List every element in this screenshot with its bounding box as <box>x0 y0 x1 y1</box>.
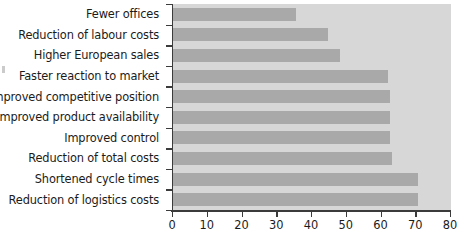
bar <box>173 193 418 206</box>
bar <box>173 90 390 103</box>
category-label: Higher European sales <box>0 45 166 66</box>
value-axis-ticklabel: 30 <box>269 218 284 232</box>
bar <box>173 49 340 62</box>
category-label: Shortened cycle times <box>0 169 166 190</box>
bar-row <box>173 169 451 190</box>
value-axis-tick <box>346 211 347 217</box>
value-axis-tick <box>415 211 416 217</box>
value-axis-ticklabel: 20 <box>234 218 249 232</box>
category-label: Improved control <box>0 128 166 149</box>
category-label: Reduction of total costs <box>0 148 166 169</box>
value-axis-tick <box>172 211 173 217</box>
plot-area <box>172 4 451 210</box>
value-axis-tick <box>276 211 277 217</box>
bar <box>173 8 296 21</box>
category-label: Fewer offices <box>0 4 166 25</box>
category-axis-labels: Fewer offices Reduction of labour costs … <box>0 4 166 210</box>
value-axis-tick <box>381 211 382 217</box>
category-label: Reduction of logistics costs <box>0 189 166 210</box>
bars-layer <box>173 4 451 210</box>
value-axis-tick <box>207 211 208 217</box>
bar-row <box>173 45 451 66</box>
horizontal-bar-chart: Fewer offices Reduction of labour costs … <box>0 0 461 242</box>
value-axis-ticklabel: 50 <box>339 218 354 232</box>
bar <box>173 173 418 186</box>
value-axis-ticklabel: 60 <box>373 218 388 232</box>
bar <box>173 70 388 83</box>
bar <box>173 152 392 165</box>
category-label: Reduction of labour costs <box>0 25 166 46</box>
bar-row <box>173 107 451 128</box>
bar-row <box>173 66 451 87</box>
bar-row <box>173 25 451 46</box>
value-axis-ticklabel: 10 <box>200 218 215 232</box>
bar-row <box>173 148 451 169</box>
value-axis-ticklabel: 70 <box>408 218 423 232</box>
bar <box>173 111 390 124</box>
bar <box>173 131 390 144</box>
bar-row <box>173 189 451 210</box>
value-axis-tick <box>311 211 312 217</box>
bar-row <box>173 4 451 25</box>
value-axis-tick <box>242 211 243 217</box>
value-axis-ticklabel: 0 <box>168 218 175 232</box>
value-axis-ticklabels: 01020304050607080 <box>172 218 450 236</box>
value-axis-ticklabel: 80 <box>443 218 458 232</box>
category-label: Faster reaction to market <box>0 66 166 87</box>
bar-row <box>173 86 451 107</box>
value-axis-tick <box>450 211 451 217</box>
bar <box>173 28 328 41</box>
category-label: Improved product availability <box>0 107 166 128</box>
bar-row <box>173 128 451 149</box>
value-axis-tickmarks <box>172 211 450 217</box>
value-axis-ticklabel: 40 <box>304 218 319 232</box>
category-label: Improved competitive position <box>0 86 166 107</box>
